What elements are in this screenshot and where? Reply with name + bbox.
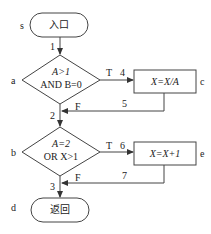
edge-label-2: 2 xyxy=(50,111,55,121)
edge-label-3: 3 xyxy=(50,182,55,192)
node-id-e: e xyxy=(200,149,204,159)
edge-label-7: 7 xyxy=(122,171,127,181)
edge-label-6: 6 xyxy=(120,141,125,151)
node-id-b: b xyxy=(11,148,16,158)
decision-a-line2: AND B=0 xyxy=(22,79,100,91)
edge-label-1: 1 xyxy=(50,42,55,52)
branch-b-true: T xyxy=(106,141,112,151)
decision-b-line1: A=2 xyxy=(22,138,100,150)
process-c-text: X=X/A xyxy=(134,76,196,88)
edge-label-5: 5 xyxy=(122,99,127,109)
node-id-s: s xyxy=(20,21,24,31)
end-text: 返回 xyxy=(31,204,89,216)
node-id-c: c xyxy=(200,77,204,87)
start-text: 入口 xyxy=(30,19,88,31)
edge-label-4: 4 xyxy=(120,68,125,78)
flowchart-canvas xyxy=(0,0,211,234)
branch-b-false: F xyxy=(75,173,81,183)
node-id-d: d xyxy=(11,203,16,213)
branch-a-true: T xyxy=(106,68,112,78)
process-e-text: X=X+1 xyxy=(134,148,196,160)
branch-a-false: F xyxy=(75,102,81,112)
decision-b-line2: OR X>1 xyxy=(22,151,100,163)
node-id-a: a xyxy=(11,76,15,86)
decision-a-line1: A>1 xyxy=(22,66,100,78)
